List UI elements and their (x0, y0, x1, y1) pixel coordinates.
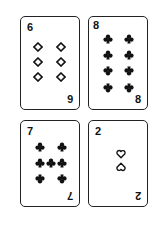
club-icon (57, 142, 67, 152)
card-rank-bottom: 8 (135, 94, 141, 105)
card-two-of-hearts[interactable]: 2 2 (88, 120, 148, 207)
diamond-outline-icon (33, 72, 43, 82)
card-rank-top: 8 (93, 20, 99, 31)
club-icon (46, 158, 56, 168)
club-icon (103, 66, 113, 76)
diamond-outline-icon (33, 42, 43, 52)
card-seven-of-clubs[interactable]: 7 7 (20, 120, 80, 207)
club-icon (124, 83, 134, 93)
card-rank-top: 6 (27, 22, 33, 33)
club-icon (103, 83, 113, 93)
card-rank-top: 7 (27, 126, 33, 137)
club-icon (103, 50, 113, 60)
club-icon (35, 174, 45, 184)
diamond-outline-icon (56, 72, 66, 82)
club-icon (103, 34, 113, 44)
club-icon (124, 66, 134, 76)
card-eight-of-clubs[interactable]: 8 8 (88, 16, 148, 110)
club-icon (57, 158, 67, 168)
diamond-outline-icon (56, 42, 66, 52)
club-icon (124, 34, 134, 44)
club-icon (35, 142, 45, 152)
card-rank-bottom: 7 (67, 190, 73, 201)
card-rank-bottom: 6 (67, 93, 73, 104)
card-rank-top: 2 (95, 126, 101, 137)
club-icon (124, 50, 134, 60)
card-six-of-diamonds[interactable]: 6 6 (20, 16, 80, 110)
diamond-outline-icon (33, 57, 43, 67)
heart-outline-icon (116, 149, 126, 159)
diamond-outline-icon (56, 57, 66, 67)
club-icon (57, 174, 67, 184)
club-icon (35, 158, 45, 168)
card-rank-bottom: 2 (135, 190, 141, 201)
heart-outline-icon (116, 162, 126, 172)
